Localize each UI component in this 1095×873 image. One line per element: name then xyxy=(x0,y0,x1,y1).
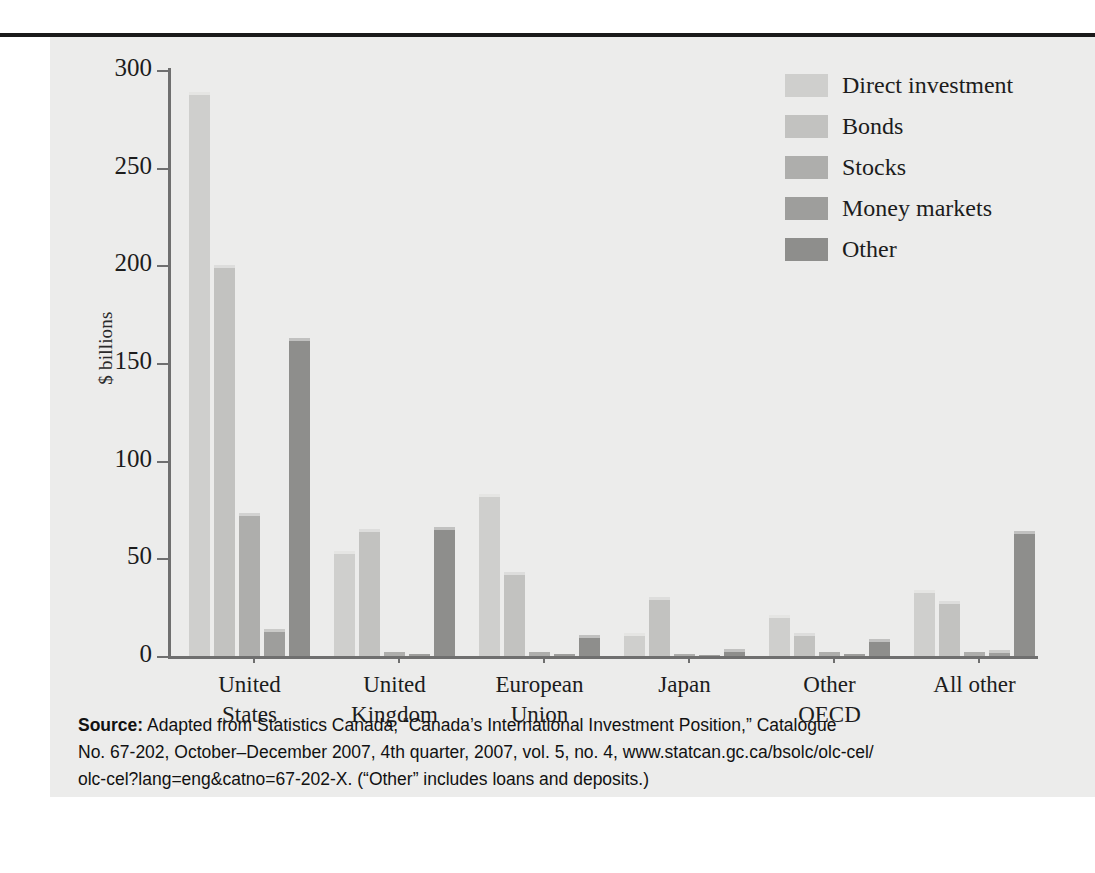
bar xyxy=(289,338,310,656)
bar xyxy=(1014,531,1035,656)
bar xyxy=(434,527,455,656)
x-tick-mark xyxy=(253,656,255,663)
source-note: Source: Adapted from Statistics Canada, … xyxy=(78,712,1038,793)
bar xyxy=(819,652,840,656)
bar xyxy=(939,601,960,656)
bar xyxy=(794,633,815,656)
bar xyxy=(624,633,645,656)
bar-group xyxy=(479,70,600,656)
figure-page: $ billions 050100150200250300 UnitedStat… xyxy=(0,0,1095,873)
bar xyxy=(699,655,720,656)
bar-highlight xyxy=(189,92,210,95)
x-tick-mark xyxy=(398,656,400,663)
bar xyxy=(674,654,695,656)
bar-highlight xyxy=(434,527,455,530)
y-tick-mark xyxy=(157,461,168,463)
bar xyxy=(409,654,430,656)
legend-item: Direct investment xyxy=(785,65,1085,106)
bar-highlight xyxy=(989,650,1010,653)
bar xyxy=(239,513,260,656)
bar xyxy=(359,529,380,656)
bar xyxy=(504,572,525,656)
x-tick-mark xyxy=(688,656,690,663)
legend-item: Money markets xyxy=(785,188,1085,229)
x-category-label-line: All other xyxy=(880,670,1070,700)
y-tick-mark xyxy=(157,265,168,267)
legend-label: Stocks xyxy=(842,154,906,181)
bar-highlight xyxy=(1014,531,1035,534)
bar xyxy=(554,654,575,656)
bar xyxy=(214,265,235,656)
bar xyxy=(724,649,745,656)
x-tick-mark xyxy=(833,656,835,663)
bar-highlight xyxy=(359,529,380,532)
y-tick-mark xyxy=(157,656,168,658)
legend-label: Other xyxy=(842,236,897,263)
x-tick-mark xyxy=(543,656,545,663)
legend-swatch xyxy=(785,238,828,261)
x-tick-mark xyxy=(978,656,980,663)
legend-swatch xyxy=(785,74,828,97)
bar-highlight xyxy=(649,597,670,600)
legend-swatch xyxy=(785,115,828,138)
bar-highlight xyxy=(724,649,745,652)
bar xyxy=(264,629,285,656)
bar xyxy=(844,654,865,656)
y-tick-mark xyxy=(157,558,168,560)
bar-highlight xyxy=(579,635,600,638)
bar xyxy=(769,615,790,656)
bar-highlight xyxy=(939,601,960,604)
bar-group xyxy=(624,70,745,656)
bar xyxy=(334,551,355,656)
figure-panel: $ billions 050100150200250300 UnitedStat… xyxy=(50,37,1095,797)
bar-highlight xyxy=(479,494,500,497)
bar-highlight xyxy=(504,572,525,575)
bar-group xyxy=(189,70,310,656)
source-note-label: Source: xyxy=(78,715,143,735)
bar xyxy=(189,92,210,657)
chart-legend: Direct investmentBondsStocksMoney market… xyxy=(785,65,1085,270)
bar-chart: $ billions 050100150200250300 UnitedStat… xyxy=(50,37,1095,697)
legend-item: Bonds xyxy=(785,106,1085,147)
y-tick-label: 300 xyxy=(115,54,153,82)
bar-group xyxy=(334,70,455,656)
bar-highlight xyxy=(869,639,890,642)
legend-swatch xyxy=(785,197,828,220)
bar-highlight xyxy=(214,265,235,268)
legend-swatch xyxy=(785,156,828,179)
y-tick-label: 150 xyxy=(115,347,153,375)
legend-label: Direct investment xyxy=(842,72,1013,99)
y-tick-label: 50 xyxy=(127,542,152,570)
legend-label: Money markets xyxy=(842,195,992,222)
bar-highlight xyxy=(769,615,790,618)
bar xyxy=(914,590,935,656)
y-tick-label: 200 xyxy=(115,249,153,277)
bar xyxy=(869,639,890,656)
source-note-text-1: Adapted from Statistics Canada, “Canada’… xyxy=(143,715,836,735)
bar xyxy=(479,494,500,656)
y-tick-label: 100 xyxy=(115,445,153,473)
bar xyxy=(529,652,550,656)
y-tick-mark xyxy=(157,168,168,170)
bar xyxy=(579,635,600,656)
bar-highlight xyxy=(794,633,815,636)
source-note-line-3: olc-cel?lang=eng&catno=67-202-X. (“Other… xyxy=(78,766,1038,793)
y-tick-label: 250 xyxy=(115,152,153,180)
bar xyxy=(964,652,985,656)
bar xyxy=(649,597,670,656)
y-tick-mark xyxy=(157,70,168,72)
bar-highlight xyxy=(914,590,935,593)
x-axis-line xyxy=(168,656,1038,659)
bar-highlight xyxy=(334,551,355,554)
x-category-label: All other xyxy=(880,670,1070,700)
bar-highlight xyxy=(289,338,310,341)
bar-highlight xyxy=(239,513,260,516)
bar-highlight xyxy=(264,629,285,632)
bar xyxy=(989,650,1010,656)
legend-label: Bonds xyxy=(842,113,903,140)
legend-item: Stocks xyxy=(785,147,1085,188)
legend-item: Other xyxy=(785,229,1085,270)
y-tick-label: 0 xyxy=(140,640,153,668)
y-tick-mark xyxy=(157,363,168,365)
source-note-line-2: No. 67-202, October–December 2007, 4th q… xyxy=(78,739,1038,766)
